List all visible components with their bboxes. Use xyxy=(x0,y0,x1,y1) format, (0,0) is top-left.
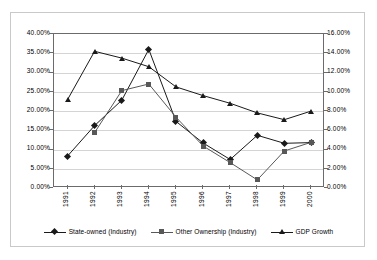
right-axis-tick-label: 6.00% xyxy=(327,126,346,133)
x-axis-tick-mark xyxy=(256,185,257,189)
x-axis-tick-mark xyxy=(229,185,230,189)
legend-label: GDP Growth xyxy=(296,229,334,236)
x-axis-tick-label: 2000 xyxy=(307,191,314,207)
right-axis-tick-label: 8.00% xyxy=(327,107,346,114)
right-axis-tick-label: 0.00% xyxy=(327,184,346,191)
data-point-square xyxy=(201,144,206,149)
x-axis-tick-mark xyxy=(175,185,176,189)
left-axis-tick-label: 25.00% xyxy=(27,88,50,95)
x-axis-tick-label: 1994 xyxy=(144,191,151,207)
x-axis-tick-mark xyxy=(283,185,284,189)
right-axis-tick-label: 10.00% xyxy=(327,88,350,95)
x-axis-tick-label: 1996 xyxy=(199,191,206,207)
right-axis-tick-label: 2.00% xyxy=(327,165,346,172)
legend-item[interactable]: State-owned (Industry) xyxy=(44,228,137,236)
x-axis-tick-mark xyxy=(148,185,149,189)
right-axis-tick-label: 12.00% xyxy=(327,68,350,75)
plot-area xyxy=(53,33,324,187)
data-point-triangle xyxy=(308,109,314,114)
legend-swatch xyxy=(271,228,293,236)
left-axis-tick-label: 35.00% xyxy=(27,49,50,56)
chart-frame: 0.00%5.00%10.00%15.00%20.00%25.00%30.00%… xyxy=(10,12,365,247)
data-point-triangle xyxy=(173,84,179,89)
data-point-triangle xyxy=(227,101,233,106)
x-axis-tick-label: 1993 xyxy=(117,191,124,207)
right-axis-tick-labels: 0.00%2.00%4.00%6.00%8.00%10.00%12.00%14.… xyxy=(327,33,367,187)
legend-label: State-owned (Industry) xyxy=(69,229,137,236)
data-point-triangle xyxy=(92,49,98,54)
left-axis-tick-label: 20.00% xyxy=(27,107,50,114)
legend-marker-diamond-icon xyxy=(51,228,58,235)
data-point-square xyxy=(173,115,178,120)
x-axis-tick-label: 1991 xyxy=(63,191,70,207)
right-axis-tick-label: 14.00% xyxy=(327,49,350,56)
data-point-triangle xyxy=(119,56,125,61)
data-point-square xyxy=(228,160,233,165)
left-axis-tick-label: 10.00% xyxy=(27,145,50,152)
x-axis-tick-mark xyxy=(310,185,311,189)
x-axis-tick-label: 1997 xyxy=(226,191,233,207)
x-axis-tick-label: 1995 xyxy=(171,191,178,207)
legend-swatch xyxy=(44,228,66,236)
left-axis-tick-label: 5.00% xyxy=(31,165,50,172)
data-point-square xyxy=(255,177,260,182)
x-axis-tick-label: 1999 xyxy=(280,191,287,207)
series-lines xyxy=(54,34,325,188)
data-point-triangle xyxy=(281,117,287,122)
right-axis-tick-label: 16.00% xyxy=(327,30,350,37)
data-point-triangle xyxy=(65,97,71,102)
series-line xyxy=(68,51,312,119)
data-point-triangle xyxy=(254,110,260,115)
x-axis-tick-mark xyxy=(94,185,95,189)
legend-marker-square-icon xyxy=(159,229,164,234)
data-point-square xyxy=(146,82,151,87)
legend-marker-triangle-icon xyxy=(279,229,285,234)
left-axis-tick-label: 15.00% xyxy=(27,126,50,133)
data-point-square xyxy=(309,140,314,145)
legend-item[interactable]: GDP Growth xyxy=(271,228,334,236)
x-axis-tick-mark xyxy=(121,185,122,189)
x-axis-tick-label: 1992 xyxy=(90,191,97,207)
left-axis-tick-label: 0.00% xyxy=(31,184,50,191)
x-axis-tick-mark xyxy=(67,185,68,189)
right-axis-tick-label: 4.00% xyxy=(327,145,346,152)
x-axis-tick-mark xyxy=(202,185,203,189)
data-point-triangle xyxy=(146,64,152,69)
left-axis-tick-label: 40.00% xyxy=(27,30,50,37)
series-line xyxy=(68,49,312,159)
left-axis-tick-labels: 0.00%5.00%10.00%15.00%20.00%25.00%30.00%… xyxy=(11,33,50,187)
legend-item[interactable]: Other Ownership (Industry) xyxy=(151,228,257,236)
legend-label: Other Ownership (Industry) xyxy=(176,229,257,236)
data-point-square xyxy=(92,130,97,135)
data-point-square xyxy=(282,149,287,154)
x-axis-tick-label: 1998 xyxy=(253,191,260,207)
left-axis-tick-mark xyxy=(49,187,53,188)
chart-legend: State-owned (Industry)Other Ownership (I… xyxy=(11,228,366,236)
left-axis-tick-label: 30.00% xyxy=(27,68,50,75)
series-line xyxy=(95,84,312,180)
data-point-triangle xyxy=(200,93,206,98)
legend-swatch xyxy=(151,228,173,236)
data-point-square xyxy=(119,88,124,93)
x-axis-tick-labels: 1991199219931994199519961997199819992000 xyxy=(53,189,324,233)
